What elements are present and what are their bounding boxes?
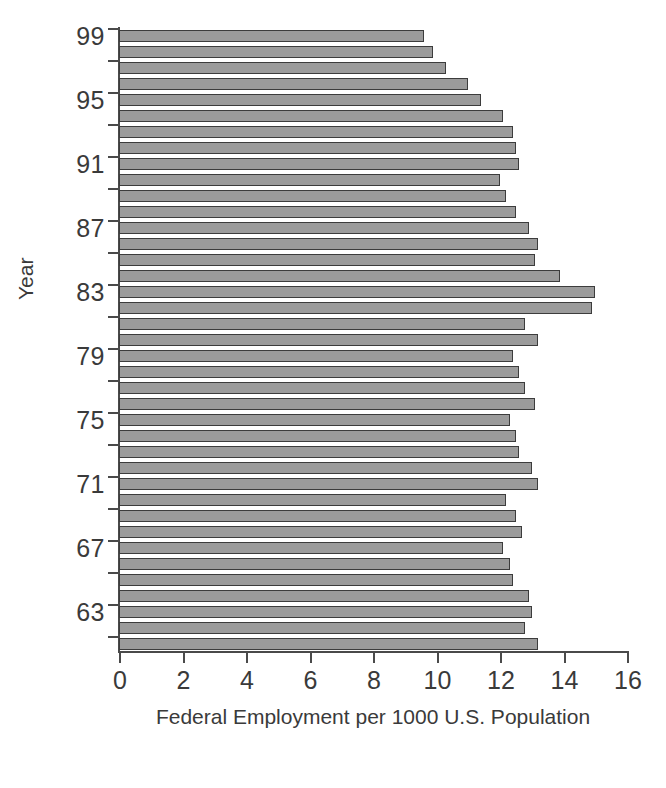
- bar: [119, 414, 510, 426]
- bar-row: [119, 590, 627, 602]
- x-tick: [500, 651, 502, 663]
- bar-row: [119, 94, 627, 106]
- x-tick-label: 8: [367, 666, 381, 695]
- bar: [119, 126, 513, 138]
- y-tick-label: 83: [76, 278, 105, 307]
- bar: [119, 238, 538, 250]
- bar-row: [119, 302, 627, 314]
- bar-row: [119, 334, 627, 346]
- bar-row: [119, 30, 627, 42]
- bar-row: [119, 398, 627, 410]
- y-axis-title: Year: [14, 258, 38, 300]
- x-tick: [183, 651, 185, 663]
- y-tick: [108, 252, 119, 254]
- y-tick: [108, 444, 119, 446]
- bar-row: [119, 158, 627, 170]
- y-tick: [108, 156, 119, 158]
- bar-row: [119, 318, 627, 330]
- bar-row: [119, 78, 627, 90]
- y-tick: [108, 220, 119, 222]
- x-tick: [373, 651, 375, 663]
- bar: [119, 206, 516, 218]
- bar-row: [119, 542, 627, 554]
- bar-row: [119, 142, 627, 154]
- bar-row: [119, 286, 627, 298]
- x-tick-label: 6: [304, 666, 318, 695]
- bar: [119, 350, 513, 362]
- bar-row: [119, 238, 627, 250]
- y-tick-label: 95: [76, 86, 105, 115]
- bar-row: [119, 254, 627, 266]
- y-tick: [108, 284, 119, 286]
- bar-row: [119, 462, 627, 474]
- plot-area: 99959187837975716763: [119, 28, 627, 652]
- bar-row: [119, 558, 627, 570]
- bar-row: [119, 382, 627, 394]
- x-tick-label: 2: [177, 666, 191, 695]
- bar: [119, 398, 535, 410]
- y-tick: [108, 604, 119, 606]
- y-tick-label: 63: [76, 598, 105, 627]
- bar: [119, 110, 503, 122]
- bar: [119, 558, 510, 570]
- x-tick-label: 4: [240, 666, 254, 695]
- x-tick-label: 14: [551, 666, 579, 695]
- bar-chart: 99959187837975716763 0246810121416 Year …: [0, 0, 666, 788]
- bar-row: [119, 46, 627, 58]
- bar-row: [119, 366, 627, 378]
- bar: [119, 46, 433, 58]
- bar: [119, 142, 516, 154]
- bar-row: [119, 478, 627, 490]
- bar: [119, 302, 592, 314]
- bar: [119, 510, 516, 522]
- y-tick: [108, 476, 119, 478]
- bar: [119, 62, 446, 74]
- y-tick: [108, 60, 119, 62]
- bar-row: [119, 222, 627, 234]
- y-tick-label: 67: [76, 534, 105, 563]
- bar: [119, 638, 538, 650]
- bar-series: [119, 28, 627, 652]
- bar: [119, 622, 525, 634]
- bar: [119, 382, 525, 394]
- bar-row: [119, 110, 627, 122]
- y-tick: [108, 124, 119, 126]
- bar: [119, 526, 522, 538]
- y-tick: [108, 92, 119, 94]
- bar: [119, 158, 519, 170]
- y-tick: [108, 348, 119, 350]
- y-tick: [108, 188, 119, 190]
- bar: [119, 446, 519, 458]
- bar: [119, 366, 519, 378]
- bar: [119, 222, 529, 234]
- bar-row: [119, 62, 627, 74]
- x-tick-label: 16: [614, 666, 642, 695]
- x-axis-title: Federal Employment per 1000 U.S. Populat…: [119, 703, 627, 730]
- x-tick-label: 12: [487, 666, 515, 695]
- bar: [119, 254, 535, 266]
- bar: [119, 430, 516, 442]
- bar-row: [119, 174, 627, 186]
- y-tick: [108, 540, 119, 542]
- bar: [119, 590, 529, 602]
- x-tick: [437, 651, 439, 663]
- bar-row: [119, 606, 627, 618]
- bar-row: [119, 414, 627, 426]
- bar: [119, 478, 538, 490]
- y-tick: [108, 508, 119, 510]
- bar-row: [119, 270, 627, 282]
- y-tick: [108, 412, 119, 414]
- bar-row: [119, 446, 627, 458]
- bar: [119, 286, 595, 298]
- bar: [119, 190, 506, 202]
- bar: [119, 574, 513, 586]
- y-tick-label: 79: [76, 342, 105, 371]
- bar-row: [119, 574, 627, 586]
- y-tick-label: 87: [76, 214, 105, 243]
- bar-row: [119, 494, 627, 506]
- y-tick-label: 99: [76, 22, 105, 51]
- bar: [119, 318, 525, 330]
- bar-row: [119, 190, 627, 202]
- x-tick-label: 10: [424, 666, 452, 695]
- x-tick: [627, 651, 629, 663]
